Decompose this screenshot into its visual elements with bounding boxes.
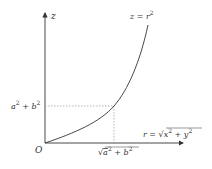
z-tick-label: a2 + b2: [11, 99, 41, 111]
curve-label: z = r2: [129, 9, 154, 21]
parabola-curve: [45, 25, 148, 143]
origin-label: O: [35, 145, 43, 155]
diagram-canvas: z z = r2 a2 + b2 O √a2 + b2 r = √x2 + y2: [0, 0, 212, 169]
r-axis-label: r = √x2 + y2: [143, 127, 192, 139]
z-axis-label: z: [50, 11, 56, 21]
